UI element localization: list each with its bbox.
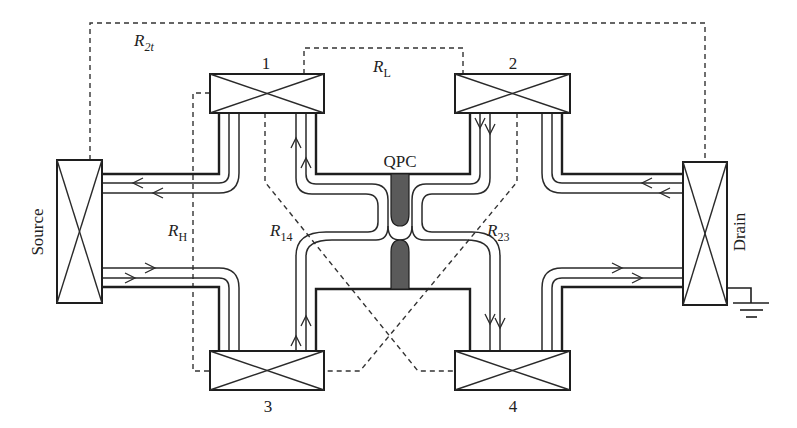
r23-label: R23 bbox=[486, 221, 509, 244]
qpc-hall-bar-diagram: 1 2 3 4 QPC Source Drain R2t RL RH R14 R… bbox=[0, 0, 797, 428]
source-label: Source bbox=[28, 208, 47, 255]
contact-4 bbox=[455, 351, 570, 390]
qpc-label: QPC bbox=[383, 152, 416, 171]
loop-r2t bbox=[90, 23, 705, 162]
rl-label: RL bbox=[372, 57, 391, 80]
contact-source bbox=[57, 160, 102, 303]
loop-rh bbox=[193, 93, 210, 371]
contact-2-label: 2 bbox=[509, 54, 518, 73]
contact-drain bbox=[683, 162, 727, 305]
contact-3-label: 3 bbox=[264, 397, 273, 416]
contact-1 bbox=[210, 74, 324, 113]
loop-r14 bbox=[265, 113, 455, 371]
drain-label: Drain bbox=[730, 212, 749, 251]
contact-1-label: 1 bbox=[262, 54, 271, 73]
qpc-gate-top bbox=[391, 174, 409, 226]
r2t-label: R2t bbox=[133, 31, 154, 54]
r14-label: R14 bbox=[269, 221, 292, 244]
qpc-gates bbox=[391, 174, 409, 289]
qpc-gate-bottom bbox=[391, 240, 409, 289]
edge-channels bbox=[102, 113, 683, 351]
rh-label: RH bbox=[167, 221, 187, 244]
contact-4-label: 4 bbox=[509, 397, 518, 416]
contact-3 bbox=[210, 351, 324, 390]
mesa-outline bbox=[102, 113, 683, 351]
loop-r23 bbox=[324, 113, 517, 371]
contact-2 bbox=[455, 74, 570, 113]
ground-icon bbox=[727, 288, 769, 317]
